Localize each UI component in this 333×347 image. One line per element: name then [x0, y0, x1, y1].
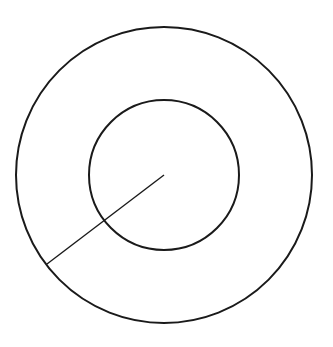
- concentric-circles-diagram: [0, 0, 333, 347]
- radius-line: [47, 175, 164, 264]
